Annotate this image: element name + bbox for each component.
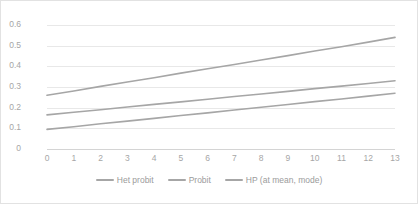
y-tick-label: 0.3: [0, 82, 21, 91]
y-tick-label: 0.5: [0, 41, 21, 50]
x-tick-label: 11: [330, 153, 352, 163]
legend-label: Het probit: [117, 175, 154, 185]
gridline: [47, 149, 395, 150]
x-tick-label: 9: [277, 153, 299, 163]
y-tick-label: 0.4: [0, 61, 21, 70]
x-tick-label: 3: [116, 153, 138, 163]
chart-container: 00.10.20.30.40.50.6 012345678910111213 H…: [0, 0, 418, 204]
legend-swatch-icon: [96, 179, 114, 181]
x-tick-label: 0: [36, 153, 58, 163]
legend-item[interactable]: HP (at mean, mode): [225, 175, 322, 185]
y-tick-label: 0.2: [0, 103, 21, 112]
x-tick-label: 4: [143, 153, 165, 163]
x-axis: 012345678910111213: [47, 153, 395, 165]
x-tick-label: 5: [170, 153, 192, 163]
chart-legend: Het probitProbitHP (at mean, mode): [1, 175, 417, 185]
plot-area: [47, 25, 395, 149]
legend-item[interactable]: Het probit: [96, 175, 154, 185]
x-tick-label: 8: [250, 153, 272, 163]
legend-item[interactable]: Probit: [168, 175, 211, 185]
x-tick-label: 10: [304, 153, 326, 163]
x-tick-label: 6: [197, 153, 219, 163]
x-tick-label: 2: [90, 153, 112, 163]
x-tick-label: 12: [357, 153, 379, 163]
y-tick-label: 0.1: [0, 123, 21, 132]
x-tick-label: 13: [384, 153, 406, 163]
legend-swatch-icon: [168, 179, 186, 181]
y-tick-label: 0.6: [0, 20, 21, 29]
x-tick-label: 7: [223, 153, 245, 163]
legend-swatch-icon: [225, 179, 243, 181]
series-lines: [47, 25, 395, 149]
legend-label: Probit: [189, 175, 211, 185]
legend-label: HP (at mean, mode): [246, 175, 322, 185]
x-tick-label: 1: [63, 153, 85, 163]
y-tick-label: 0: [0, 144, 21, 153]
